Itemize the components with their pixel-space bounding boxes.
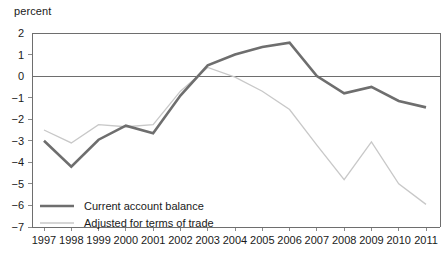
y-tick-label: −6 xyxy=(11,199,24,211)
data-series-group xyxy=(44,43,426,205)
x-tick-label: 2007 xyxy=(305,234,329,246)
x-axis-ticks: 1997199819992000200120022003200420052006… xyxy=(32,227,438,246)
x-tick-label: 1998 xyxy=(59,234,83,246)
x-tick-label: 2010 xyxy=(386,234,410,246)
y-axis-ticks: 210−1−2−3−4−5−6−7 xyxy=(11,27,32,233)
y-tick-label: 1 xyxy=(18,49,24,61)
series-line-1 xyxy=(44,43,426,167)
x-tick-label: 2002 xyxy=(168,234,192,246)
y-tick-label: −4 xyxy=(11,156,24,168)
x-tick-label: 2000 xyxy=(114,234,138,246)
plot-frame xyxy=(32,33,440,227)
x-tick-label: 2004 xyxy=(223,234,247,246)
y-tick-label: 2 xyxy=(18,27,24,39)
x-tick-label: 1999 xyxy=(86,234,110,246)
y-tick-label: −5 xyxy=(11,178,24,190)
chart-container: percent 210−1−2−3−4−5−6−7 19971998199920… xyxy=(0,0,448,262)
x-tick-label: 2005 xyxy=(250,234,274,246)
x-tick-label: 1997 xyxy=(32,234,56,246)
y-tick-label: −7 xyxy=(11,221,24,233)
x-tick-label: 2006 xyxy=(277,234,301,246)
line-chart-plot: 210−1−2−3−4−5−6−7 1997199819992000200120… xyxy=(0,0,448,262)
legend-label-1: Current account balance xyxy=(84,200,204,212)
legend-label-2: Adjusted for terms of trade xyxy=(84,217,214,229)
y-tick-label: −3 xyxy=(11,135,24,147)
chart-legend: Current account balanceAdjusted for term… xyxy=(40,200,214,229)
x-tick-label: 2003 xyxy=(195,234,219,246)
y-tick-label: −2 xyxy=(11,113,24,125)
x-tick-label: 2009 xyxy=(359,234,383,246)
y-tick-label: −1 xyxy=(11,92,24,104)
y-tick-label: 0 xyxy=(18,70,24,82)
x-tick-label: 2008 xyxy=(332,234,356,246)
x-tick-label: 2001 xyxy=(141,234,165,246)
x-tick-label: 2011 xyxy=(414,234,438,246)
